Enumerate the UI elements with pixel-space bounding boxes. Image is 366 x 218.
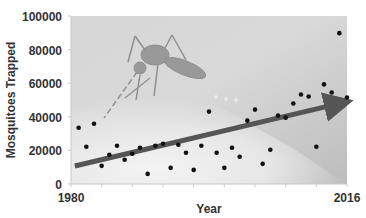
data-point — [345, 95, 350, 100]
data-point — [199, 143, 204, 148]
data-point — [84, 144, 89, 149]
data-point — [184, 150, 189, 155]
y-tick-label: 60000 — [29, 77, 63, 91]
data-point — [168, 166, 173, 171]
data-point — [145, 172, 150, 177]
data-point — [314, 144, 319, 149]
data-point — [253, 107, 258, 112]
data-point — [283, 115, 288, 120]
data-point — [153, 143, 158, 148]
data-point — [322, 82, 327, 87]
data-point — [299, 92, 304, 97]
data-point — [260, 162, 265, 167]
y-tick-label: 80000 — [29, 44, 63, 58]
data-point — [138, 145, 143, 150]
data-point — [122, 158, 127, 163]
data-point — [107, 152, 112, 157]
mosquito-scatter-chart: 100000 80000 60000 40000 20000 0 1980 20… — [0, 0, 366, 218]
data-point — [276, 113, 281, 118]
data-point — [92, 121, 97, 126]
data-point — [191, 168, 196, 173]
data-point — [161, 141, 166, 146]
data-point — [130, 151, 135, 156]
y-tick-label: 40000 — [29, 111, 63, 125]
data-point — [268, 147, 273, 152]
y-axis-title: Mosquitoes Trapped — [4, 42, 18, 159]
data-point — [207, 109, 212, 114]
data-point — [237, 154, 242, 159]
data-point — [115, 143, 120, 148]
y-tick-labels: 100000 80000 60000 40000 20000 0 — [22, 10, 62, 192]
y-tick-label: 0 — [55, 178, 62, 192]
data-point — [245, 118, 250, 123]
data-point — [214, 150, 219, 155]
data-point — [76, 125, 81, 130]
y-tick-label: 20000 — [29, 144, 63, 158]
data-point — [176, 142, 181, 147]
y-tick-label: 100000 — [22, 10, 62, 24]
data-point — [329, 90, 334, 95]
data-point — [337, 31, 342, 36]
x-tick-label-start: 1980 — [58, 191, 85, 205]
x-tick-label-end: 2016 — [334, 191, 361, 205]
x-axis-title: Year — [196, 202, 222, 216]
data-point — [306, 94, 311, 99]
data-point — [291, 101, 296, 106]
data-point — [230, 145, 235, 150]
data-point — [222, 166, 227, 171]
data-point — [99, 164, 104, 169]
